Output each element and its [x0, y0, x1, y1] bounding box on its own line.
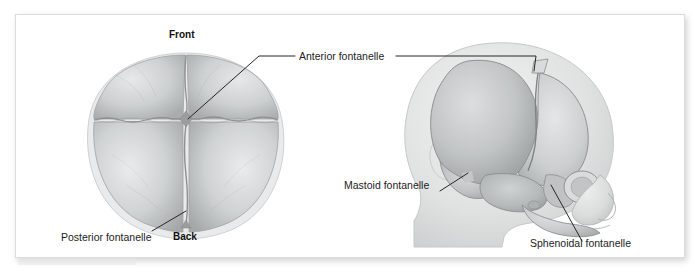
- lateral-skull-view: [405, 43, 616, 247]
- ghost-text-right: · · · · · ·: [430, 0, 475, 8]
- illustration-card: Front Back Anterior fontanelle Posterior…: [15, 14, 685, 258]
- label-posterior-fontanelle: Posterior fontanelle: [61, 231, 151, 243]
- mouth-line: [592, 225, 610, 229]
- orientation-label-back: Back: [173, 231, 197, 242]
- label-sphenoidal-fontanelle: Sphenoidal fontanelle: [530, 237, 631, 249]
- left-frontal-bone: [94, 55, 185, 119]
- right-frontal-bone: [187, 55, 278, 119]
- orientation-label-front: Front: [169, 29, 195, 40]
- ghost-text-left: · · · ·· · ···· ·: [6, 0, 76, 8]
- right-parietal-bone: [189, 122, 278, 232]
- figure-root: · · · ·· · ···· · · · · · · ·: [0, 0, 699, 273]
- left-parietal-bone: [94, 122, 183, 232]
- auditory-meatus: [528, 201, 540, 209]
- label-mastoid-fontanelle: Mastoid fontanelle: [344, 179, 429, 191]
- parietal-bone-lateral: [431, 60, 539, 184]
- scan-artifact-top: · · · ·· · ···· · · · · · · ·: [0, 0, 699, 9]
- label-anterior-fontanelle: Anterior fontanelle: [299, 50, 384, 62]
- scan-artifact-bottom: [18, 258, 136, 265]
